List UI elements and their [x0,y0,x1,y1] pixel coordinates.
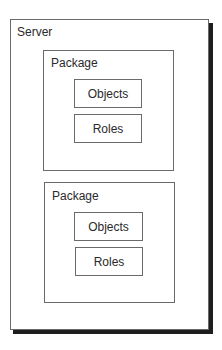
roles-label: Roles [94,255,125,269]
objects-label: Objects [88,220,129,234]
roles-box: Roles [74,114,142,143]
package-label: Package [51,56,98,70]
objects-box: Objects [74,212,143,241]
package-label: Package [52,189,99,203]
roles-box: Roles [75,247,143,276]
server-label: Server [17,25,52,39]
objects-label: Objects [88,87,129,101]
objects-box: Objects [74,79,142,108]
roles-label: Roles [93,122,124,136]
